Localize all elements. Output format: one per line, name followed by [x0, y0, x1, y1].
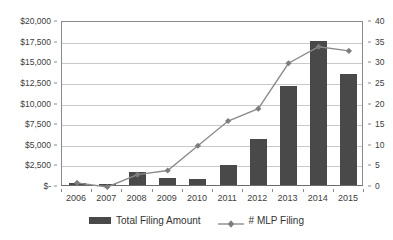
y-axis-left-tick-label: $15,000 — [20, 57, 51, 67]
chart-container: $-$2,500$5,000$7,500$10,000$12,500$15,00… — [0, 0, 393, 240]
y-axis-right-tick-label: 30 — [375, 57, 384, 67]
line-marker-diamond — [74, 180, 80, 186]
y-axis-left-tick-mark — [54, 82, 57, 83]
y-axis-right-tick-mark — [368, 41, 371, 42]
x-axis-tick-mark — [61, 189, 62, 192]
line-series-mlp-filing — [62, 22, 364, 187]
chart-legend: Total Filing Amount # MLP Filing — [0, 210, 393, 230]
x-axis-tick-label: 2010 — [187, 193, 207, 203]
line-marker-diamond — [134, 172, 140, 178]
y-axis-right-tick-mark — [368, 165, 371, 166]
x-axis-tick-mark — [152, 189, 153, 192]
x-axis-tick-mark — [333, 189, 334, 192]
y-axis-right: 0510152025303540 — [368, 21, 393, 186]
x-axis-tick-label: 2006 — [66, 193, 86, 203]
y-axis-left-tick-label: $10,000 — [20, 99, 51, 109]
x-axis-tick-mark — [91, 189, 92, 192]
y-axis-left-tick-label: $- — [43, 181, 51, 191]
x-axis-tick-label: 2009 — [157, 193, 177, 203]
y-axis-left-tick-mark — [54, 186, 57, 187]
x-axis-tick-label: 2007 — [96, 193, 116, 203]
y-axis-left-tick-mark — [54, 41, 57, 42]
y-axis-right-tick-label: 20 — [375, 99, 384, 109]
y-axis-right-tick-mark — [368, 82, 371, 83]
y-axis-left-tick-mark — [54, 144, 57, 145]
y-axis-right-tick-mark — [368, 103, 371, 104]
y-axis-right-tick-label: 0 — [375, 181, 380, 191]
y-axis-right-tick-mark — [368, 21, 371, 22]
y-axis-right-tick-label: 15 — [375, 119, 384, 129]
x-axis-tick-label: 2014 — [308, 193, 328, 203]
legend-label-mlp-filing: # MLP Filing — [249, 215, 304, 226]
y-axis-right-tick-label: 40 — [375, 16, 384, 26]
y-axis-right-tick-mark — [368, 144, 371, 145]
y-axis-left-tick-mark — [54, 124, 57, 125]
y-axis-left-tick-label: $7,500 — [25, 119, 51, 129]
y-axis-right-tick-mark — [368, 124, 371, 125]
x-axis-categories: 2006200720082009201020112012201320142015 — [61, 189, 363, 205]
x-axis-tick-mark — [212, 189, 213, 192]
legend-item-mlp-filing[interactable]: # MLP Filing — [218, 215, 304, 226]
y-axis-left-tick-mark — [54, 21, 57, 22]
x-axis-tick-label: 2012 — [247, 193, 267, 203]
y-axis-left-tick-mark — [54, 62, 57, 63]
x-axis-tick-mark — [303, 189, 304, 192]
y-axis-right-tick-label: 10 — [375, 140, 384, 150]
y-axis-right-tick-mark — [368, 186, 371, 187]
y-axis-right-tick-label: 35 — [375, 37, 384, 47]
line-path — [77, 47, 349, 187]
legend-label-total-filing-amount: Total Filing Amount — [116, 215, 201, 226]
x-axis-tick-mark — [242, 189, 243, 192]
x-axis-tick-label: 2015 — [338, 193, 358, 203]
y-axis-left-tick-mark — [54, 165, 57, 166]
y-axis-left: $-$2,500$5,000$7,500$10,000$12,500$15,00… — [0, 21, 57, 186]
x-axis-tick-label: 2008 — [126, 193, 146, 203]
x-axis-tick-mark — [363, 189, 364, 192]
y-axis-right-tick-label: 25 — [375, 78, 384, 88]
y-axis-left-tick-label: $20,000 — [20, 16, 51, 26]
y-axis-right-tick-mark — [368, 62, 371, 63]
legend-item-total-filing-amount[interactable]: Total Filing Amount — [89, 215, 201, 226]
x-axis-tick-label: 2013 — [277, 193, 297, 203]
line-marker-diamond — [316, 44, 322, 50]
y-axis-right-tick-label: 5 — [375, 160, 380, 170]
y-axis-left-tick-mark — [54, 103, 57, 104]
y-axis-left-tick-label: $17,500 — [20, 37, 51, 47]
y-axis-left-tick-label: $12,500 — [20, 78, 51, 88]
x-axis-tick-mark — [182, 189, 183, 192]
legend-line-swatch-icon — [218, 215, 244, 225]
x-axis-tick-label: 2011 — [217, 193, 236, 203]
x-axis-tick-mark — [121, 189, 122, 192]
x-axis-tick-mark — [272, 189, 273, 192]
line-marker-diamond — [346, 48, 352, 54]
plot-area — [61, 21, 363, 186]
y-axis-left-tick-label: $2,500 — [25, 160, 51, 170]
y-axis-left-tick-label: $5,000 — [25, 140, 51, 150]
legend-bar-swatch-icon — [89, 217, 111, 224]
